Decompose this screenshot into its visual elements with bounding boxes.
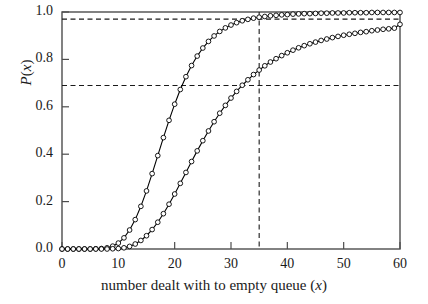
data-point (319, 11, 324, 16)
x-tick-label-20: 20 (157, 256, 193, 272)
data-point (99, 247, 104, 252)
y-axis-ticks (62, 12, 69, 249)
data-point (369, 28, 374, 33)
data-point (110, 246, 115, 251)
y-tick-label-0.0: 0.0 (21, 240, 53, 256)
series-curve-right (60, 22, 403, 251)
data-point (257, 15, 262, 20)
data-point (302, 43, 307, 48)
data-point (341, 11, 346, 16)
data-point (398, 22, 403, 27)
data-point (161, 211, 166, 216)
data-point (353, 10, 358, 15)
data-point (324, 37, 329, 42)
data-point (139, 204, 144, 209)
data-point (195, 54, 200, 59)
data-point (353, 31, 358, 36)
data-point (392, 10, 397, 15)
data-point (82, 247, 87, 252)
data-point (324, 11, 329, 16)
data-point (336, 34, 341, 39)
data-point (139, 238, 144, 243)
x-tick-label-60: 60 (382, 256, 418, 272)
data-point (319, 38, 324, 43)
data-point (200, 138, 205, 143)
data-point (308, 41, 313, 46)
data-point (178, 181, 183, 186)
data-point (268, 60, 273, 65)
data-point (234, 89, 239, 94)
data-point (223, 26, 228, 31)
data-point (212, 34, 217, 39)
data-point (206, 129, 211, 134)
data-point (279, 53, 284, 58)
data-point (308, 11, 313, 16)
data-point (167, 202, 172, 207)
data-point (71, 247, 76, 252)
data-point (122, 236, 127, 241)
data-point (291, 48, 296, 53)
data-point (240, 18, 245, 23)
data-point (246, 77, 251, 82)
data-point (274, 13, 279, 18)
data-point (347, 32, 352, 37)
data-point (93, 247, 98, 252)
data-point (88, 247, 93, 252)
data-point (127, 244, 132, 249)
data-point (285, 12, 290, 17)
data-point (268, 13, 273, 18)
data-point (133, 217, 138, 222)
data-point (392, 26, 397, 31)
data-point (279, 12, 284, 17)
data-point (234, 20, 239, 25)
data-point (172, 192, 177, 197)
data-point (144, 233, 149, 238)
data-point (223, 103, 228, 108)
series-line (62, 24, 400, 249)
data-point (369, 10, 374, 15)
data-point (358, 10, 363, 15)
y-tick-label-0.2: 0.2 (21, 193, 53, 209)
data-point (375, 10, 380, 15)
data-point (274, 56, 279, 61)
x-tick-label-40: 40 (269, 256, 305, 272)
series-curve-left (60, 10, 403, 251)
data-point (364, 10, 369, 15)
data-point (330, 35, 335, 40)
data-point (144, 189, 149, 194)
data-point (262, 63, 267, 68)
data-point (133, 242, 138, 247)
data-point (206, 39, 211, 44)
data-point (296, 45, 301, 50)
data-point (229, 96, 234, 101)
data-point (358, 30, 363, 35)
data-point (122, 245, 127, 250)
data-point (150, 227, 155, 232)
data-point (217, 29, 222, 34)
data-point (189, 63, 194, 68)
data-point (386, 26, 391, 31)
data-point (172, 102, 177, 107)
data-point (189, 159, 194, 164)
data-point (341, 33, 346, 38)
data-point (285, 50, 290, 55)
y-tick-label-1.0: 1.0 (21, 3, 53, 19)
axis-frame (62, 12, 400, 249)
data-point (257, 68, 262, 73)
data-point (251, 72, 256, 77)
data-point (116, 246, 121, 251)
data-point (302, 11, 307, 16)
data-point (127, 228, 132, 233)
data-point (336, 11, 341, 16)
data-point (155, 220, 160, 225)
y-tick-label-0.4: 0.4 (21, 145, 53, 161)
data-point (398, 10, 403, 15)
data-point (296, 12, 301, 17)
x-tick-label-30: 30 (213, 256, 249, 272)
data-point (330, 11, 335, 16)
data-point (375, 28, 380, 33)
data-point (212, 119, 217, 124)
data-point (386, 10, 391, 15)
x-tick-label-0: 0 (44, 256, 80, 272)
data-point (217, 111, 222, 116)
